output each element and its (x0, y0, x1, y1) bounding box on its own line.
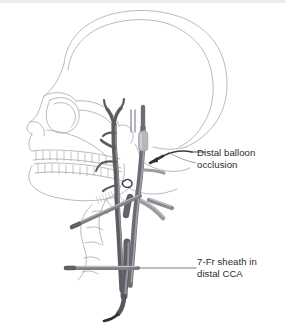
occlusion-balloon-group (139, 131, 148, 151)
cranium-outline (64, 10, 227, 147)
eca-branch-anterior (107, 109, 114, 124)
upper-alveolar-line (32, 150, 120, 159)
annotation-line-2: occlusion (197, 159, 255, 171)
sheath-upper-hub (72, 224, 79, 227)
maxilla-outline (29, 134, 32, 151)
internal-carotid-artery (130, 128, 143, 285)
frontal-bone-inner (68, 20, 166, 70)
balloon-leader-curve (168, 152, 196, 163)
eca-branch-lingual (102, 161, 116, 163)
nasal-bridge (30, 96, 44, 122)
guidewire-group (131, 110, 135, 132)
occlusion-balloon (139, 131, 148, 151)
medical-illustration-figure: Distal balloon occlusion 7-Fr sheath in … (0, 0, 286, 324)
common-carotid-tail-tip (104, 314, 118, 321)
maxilla-body (47, 130, 106, 156)
common-carotid-tail (118, 296, 124, 314)
occipital-lower (179, 126, 202, 147)
orbit-inner-rim (54, 103, 75, 127)
skull-base (153, 147, 186, 149)
vessel-knot (122, 180, 132, 188)
annotation-distal-balloon-occlusion: Distal balloon occlusion (197, 147, 255, 170)
superior-light-branch (144, 170, 164, 173)
temporal-line (166, 23, 213, 126)
annotation-seven-fr-sheath: 7-Fr sheath in distal CCA (197, 256, 257, 279)
nasal-spine (27, 122, 32, 134)
eca-branch-posterior-tip (121, 99, 124, 108)
vertebra-c6 (82, 271, 98, 274)
annotation-line-1: 7-Fr sheath in (197, 256, 257, 268)
vertebra-c3 (87, 227, 103, 230)
annotation-line-1: Distal balloon (197, 147, 255, 159)
lower-alveolar-line (34, 163, 122, 172)
annotation-line-2: distal CCA (197, 268, 257, 280)
vertebra-c4 (85, 242, 101, 245)
balloon-arrow-shaft (163, 151, 192, 156)
balloon-arrow-tip (150, 157, 158, 163)
frontal-profile (44, 64, 64, 96)
cervical-vertebrae-anterior (99, 200, 106, 245)
supraorbital-ridge (44, 93, 76, 101)
lower-teeth-base (35, 172, 123, 181)
